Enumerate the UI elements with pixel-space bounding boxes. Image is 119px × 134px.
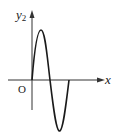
- sine-wave-diagram: y2 x O: [0, 0, 119, 134]
- y-axis-arrow-icon: [30, 10, 35, 18]
- y-axis-label: y2: [16, 8, 26, 23]
- x-axis-label: x: [105, 73, 111, 86]
- origin-label: O: [18, 84, 26, 95]
- x-axis-arrow-icon: [97, 78, 105, 83]
